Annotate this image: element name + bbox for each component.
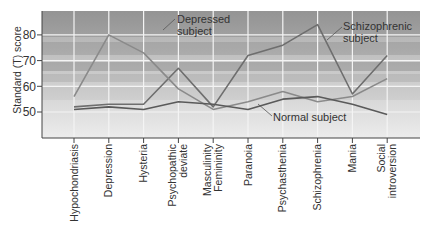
x-tick-label: MasculinityFemininity bbox=[202, 144, 224, 231]
x-tick-label: Psychasthenia bbox=[277, 144, 288, 231]
x-tick-label: Hypochondriasis bbox=[69, 144, 80, 231]
annotation-line: Schizophrenic bbox=[343, 20, 412, 32]
annotation-normal-subject: Normal subject bbox=[273, 111, 346, 123]
y-tick-70: 70 bbox=[14, 54, 36, 68]
x-tick-label-line: Hypochondriasis bbox=[69, 144, 80, 231]
x-tick-label-line: introversion bbox=[387, 144, 398, 231]
annotation-schizophrenic-subject: Schizophrenic subject bbox=[343, 20, 412, 44]
annotation-line: Depressed bbox=[177, 13, 230, 25]
annotation-depressed-subject: Depressed subject bbox=[177, 13, 230, 37]
x-tick-label: Schizophrenia bbox=[312, 144, 323, 231]
x-tick-label-line: Femininity bbox=[213, 144, 224, 231]
y-tick-50: 50 bbox=[14, 105, 36, 119]
x-tick-label: Psychopathicdeviate bbox=[167, 144, 189, 231]
x-tick-label: Hysteria bbox=[138, 144, 149, 231]
x-tick-label-line: Depression bbox=[103, 144, 114, 231]
x-tick-label: Socialintroversion bbox=[376, 144, 398, 231]
x-tick-label-line: Schizophrenia bbox=[312, 144, 323, 231]
x-tick-label-line: Psychasthenia bbox=[277, 144, 288, 231]
x-tick-label-line: deviate bbox=[178, 144, 189, 231]
annotation-line: subject bbox=[177, 25, 230, 37]
x-tick-label: Paranoia bbox=[243, 144, 254, 231]
x-tick-label: Depression bbox=[103, 144, 114, 231]
x-tick-label-line: Hysteria bbox=[138, 144, 149, 231]
x-tick-label-line: Mania bbox=[347, 144, 358, 231]
x-tick-label: Mania bbox=[347, 144, 358, 231]
annotation-line: subject bbox=[343, 32, 412, 44]
x-tick-label-line: Paranoia bbox=[243, 144, 254, 231]
y-tick-80: 80 bbox=[14, 28, 36, 42]
y-tick-60: 60 bbox=[14, 80, 36, 94]
